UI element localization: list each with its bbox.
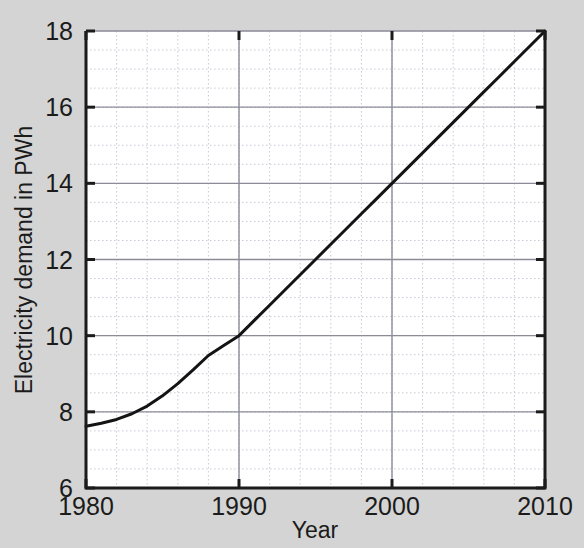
- x-tick-label: 2000: [364, 492, 420, 520]
- y-tick-label: 16: [45, 93, 73, 121]
- y-tick-label: 8: [59, 398, 73, 426]
- chart-svg: 681012141618 1980199020002010 Year Elect…: [0, 0, 584, 548]
- chart-figure: 681012141618 1980199020002010 Year Elect…: [0, 0, 584, 548]
- y-tick-label: 14: [45, 169, 73, 197]
- x-tick-label: 2010: [517, 492, 573, 520]
- y-tick-label: 18: [45, 17, 73, 45]
- y-tick-label: 10: [45, 322, 73, 350]
- x-tick-label: 1980: [58, 492, 114, 520]
- x-tick-label: 1990: [211, 492, 267, 520]
- x-axis-title: Year: [292, 517, 339, 543]
- y-axis-title: Electricity demand in PWh: [11, 126, 37, 394]
- y-tick-label: 12: [45, 246, 73, 274]
